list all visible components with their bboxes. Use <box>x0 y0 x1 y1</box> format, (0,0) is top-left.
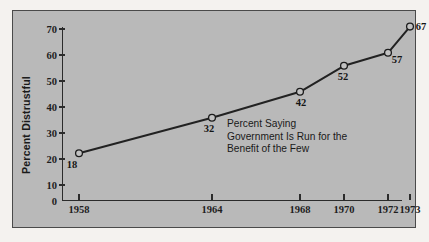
data-point-1958[interactable] <box>76 150 83 157</box>
annotation-line-2: Government Is Run for the <box>227 131 347 142</box>
data-point-1970[interactable] <box>341 62 348 69</box>
y-tick-label-10: 10 <box>47 180 58 191</box>
data-label-1964: 32 <box>204 123 215 134</box>
y-axis-title: Percent Distrustful <box>20 76 32 174</box>
y-tick-label-30: 30 <box>47 128 58 139</box>
line-chart: Percent Distrustful 70 60 50 40 30 20 10… <box>12 10 416 228</box>
data-label-1970: 52 <box>338 71 349 82</box>
data-point-1968[interactable] <box>297 88 304 95</box>
y-tick-label-0: 0 <box>52 196 57 207</box>
data-point-1972[interactable] <box>385 49 392 56</box>
annotation-line-3: Benefit of the Few <box>227 143 310 154</box>
chart-annotation: Percent Saying Government Is Run for the… <box>227 118 347 154</box>
y-tick-label-50: 50 <box>47 76 58 87</box>
x-tick-label-1968: 1968 <box>290 204 311 215</box>
data-label-1958: 18 <box>67 159 78 170</box>
y-tick-label-40: 40 <box>47 102 58 113</box>
data-point-1973[interactable] <box>407 23 414 30</box>
x-tick-label-1972: 1972 <box>378 204 399 215</box>
y-tick-label-60: 60 <box>47 50 58 61</box>
x-tick-label-1964: 1964 <box>202 204 224 215</box>
data-label-1973: 67 <box>416 21 427 32</box>
annotation-line-1: Percent Saying <box>227 118 296 129</box>
y-tick-label-20: 20 <box>47 154 58 165</box>
data-label-1968: 42 <box>296 97 307 108</box>
figure-root: Percent Distrustful 70 60 50 40 30 20 10… <box>0 0 429 242</box>
x-tick-label-1973: 1973 <box>400 204 421 215</box>
x-tick-label-1970: 1970 <box>334 204 355 215</box>
data-point-1964[interactable] <box>209 114 216 121</box>
x-axis-group: 1958 1964 1968 1970 1972 1973 <box>69 194 421 215</box>
x-tick-label-1958: 1958 <box>69 204 90 215</box>
data-label-1972: 57 <box>392 54 403 65</box>
y-tick-label-70: 70 <box>47 24 58 35</box>
